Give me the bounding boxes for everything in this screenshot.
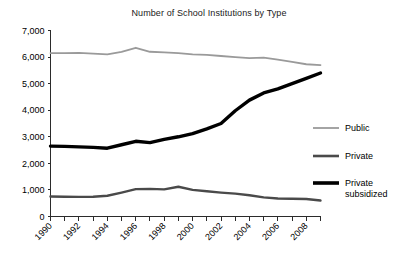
legend-label: Public [345,123,370,133]
x-tick-label: 1992 [61,221,82,242]
legend-label: Private [345,151,373,161]
y-tick-label: 4,000 [22,105,45,115]
x-tick-label: 2002 [203,221,224,242]
x-tick-label: 1994 [90,221,111,242]
y-tick-label: 6,000 [22,52,45,62]
chart-plot-area: 7,0006,0005,0004,0003,0002,0001,0000 199… [0,0,418,265]
legend-label-line2: subsidized [345,189,388,199]
series-line-private [51,187,321,201]
y-tick-label: 5,000 [22,79,45,89]
x-tick-label: 2000 [175,221,196,242]
y-tick-label: 3,000 [22,132,45,142]
series-lines [51,48,321,201]
x-tick-label: 2004 [232,221,253,242]
x-axis: 1990199219941996199820002002200420062008 [33,217,321,243]
y-tick-label: 0 [39,212,44,222]
chart-legend: PublicPrivatePrivatesubsidized [313,123,388,199]
x-tick-label: 2006 [260,221,281,242]
x-tick-label: 1998 [146,221,167,242]
chart-container: Number of School Institutions by Type 7,… [0,0,418,265]
x-tick-label: 1990 [33,221,54,242]
y-axis: 7,0006,0005,0004,0003,0002,0001,0000 [22,26,51,222]
series-line-private-subsidized [51,73,321,148]
series-line-public [51,48,321,65]
x-tick-label: 2008 [288,221,309,242]
legend-label: Private [345,178,373,188]
x-tick-label: 1996 [118,221,139,242]
y-tick-label: 7,000 [22,26,45,36]
y-tick-label: 2,000 [22,159,45,169]
y-tick-label: 1,000 [22,185,45,195]
